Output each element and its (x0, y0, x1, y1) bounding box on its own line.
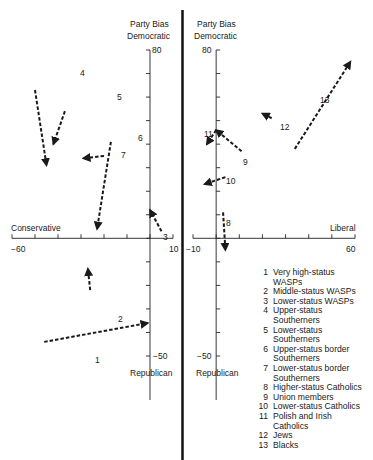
legend-item-number: 4 (254, 306, 268, 325)
right-y-axis-bottom-label: Republican (196, 368, 239, 378)
arrow-label-1: 1 (95, 355, 100, 365)
arrow-group-5 (53, 111, 65, 144)
legend-item-label: Lower-status border Southerners (273, 364, 349, 383)
legend-item: 11Polish and Irish Catholics (254, 412, 362, 431)
arrow-group-13 (295, 62, 351, 149)
legend-item-number: 1 (254, 268, 268, 287)
left-x-axis-label: Conservative (11, 223, 61, 233)
right-y-axis-title-line2: Democratic (194, 31, 237, 41)
legend-item-label: Upper-status Southerners (273, 306, 322, 325)
legend-item-number: 6 (254, 345, 268, 364)
legend: 1Very high-status WASPs2Middle-status WA… (254, 268, 362, 450)
arrow-label-7: 7 (121, 150, 126, 160)
right-x-axis-label: Liberal (330, 223, 356, 233)
arrow-label-4: 4 (80, 68, 85, 78)
arrow-group-7 (83, 156, 104, 158)
legend-item-label: Blacks (273, 441, 298, 451)
arrow-group-3 (150, 210, 162, 231)
legend-item-number: 11 (254, 412, 268, 431)
arrow-label-6: 6 (138, 133, 143, 143)
legend-item: 1Very high-status WASPs (254, 268, 362, 287)
right-y-max-label: 80 (202, 45, 211, 55)
legend-item-label: Very high-status WASPs (273, 268, 335, 287)
left-y-axis-title-line1: Party Bias (130, 19, 169, 29)
arrow-label-10: 10 (226, 176, 235, 186)
arrow-label-5: 5 (117, 92, 122, 102)
arrow-label-9: 9 (243, 157, 248, 167)
legend-item: 7Lower-status border Southerners (254, 364, 362, 383)
right-x-max-label: 60 (346, 244, 355, 254)
arrow-group-12 (262, 114, 271, 119)
arrow-group-10 (205, 177, 226, 184)
arrow-group-6 (97, 142, 111, 229)
legend-item: 5Lower-status Southerners (254, 326, 362, 345)
arrow-group-9 (216, 130, 241, 151)
legend-item-label: Upper-status border Southerners (273, 345, 349, 364)
legend-item-number: 5 (254, 326, 268, 345)
arrow-label-13: 13 (320, 95, 329, 105)
right-y-axis-title-line1: Party Bias (197, 19, 236, 29)
left-y-min-label: −50 (153, 351, 167, 361)
arrow-label-2: 2 (118, 314, 123, 324)
legend-item: 4Upper-status Southerners (254, 306, 362, 325)
legend-item: 13Blacks (254, 441, 362, 451)
arrow-label-11: 11 (204, 129, 213, 139)
arrow-label-12: 12 (280, 122, 289, 132)
legend-item-label: Lower-status Southerners (273, 326, 322, 345)
left-x-max-label: 10 (169, 244, 178, 254)
left-x-min-label: −60 (11, 244, 25, 254)
arrow-group-4 (35, 90, 47, 165)
arrow-group-1 (44, 323, 148, 342)
legend-item: 6Upper-status border Southerners (254, 345, 362, 364)
legend-item-number: 13 (254, 441, 268, 451)
legend-item-label: Polish and Irish Catholics (273, 412, 332, 431)
legend-item: 12Jews (254, 431, 362, 441)
arrow-label-8: 8 (226, 218, 231, 228)
left-y-axis-bottom-label: Republican (130, 368, 173, 378)
left-y-max-label: 80 (152, 45, 161, 55)
arrow-group-2 (88, 269, 90, 290)
right-y-min-label: −50 (197, 351, 211, 361)
legend-item-number: 7 (254, 364, 268, 383)
left-y-axis-title-line2: Democratic (127, 31, 170, 41)
right-x-min-label: −10 (186, 244, 200, 254)
arrow-label-3: 3 (163, 232, 168, 242)
